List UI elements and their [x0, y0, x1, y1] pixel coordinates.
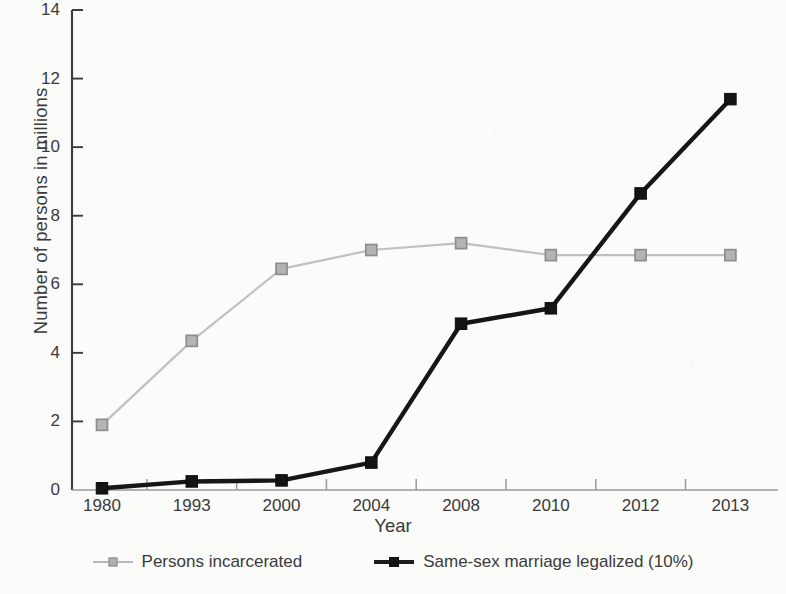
data-point-marker[interactable]	[366, 245, 377, 256]
data-point-marker[interactable]	[635, 250, 646, 261]
data-point-marker[interactable]	[366, 457, 378, 469]
data-point-marker[interactable]	[545, 250, 556, 261]
x-tick-label: 2013	[690, 496, 770, 516]
legend-label: Persons incarcerated	[142, 552, 303, 572]
data-point-marker[interactable]	[455, 318, 467, 330]
data-point-marker[interactable]	[725, 250, 736, 261]
data-point-marker[interactable]	[456, 238, 467, 249]
y-tick-label: 6	[26, 274, 60, 294]
data-point-marker[interactable]	[276, 475, 288, 487]
legend-marker-black-square-icon	[374, 555, 414, 569]
series-layer	[96, 93, 736, 494]
y-tick-label: 10	[26, 137, 60, 157]
data-point-marker[interactable]	[186, 335, 197, 346]
y-tick-label: 0	[26, 480, 60, 500]
legend-label: Same-sex marriage legalized (10%)	[423, 552, 693, 572]
series-persons-incarcerated	[97, 238, 736, 431]
y-tick-label: 4	[26, 343, 60, 363]
y-tick-label: 8	[26, 206, 60, 226]
chart-legend: Persons incarcerated Same-sex marriage l…	[0, 552, 786, 572]
x-tick-label: 2000	[242, 496, 322, 516]
chart-figure: Number of persons in millions Year 02468…	[0, 0, 786, 594]
y-tick-label: 2	[26, 411, 60, 431]
series-line	[102, 99, 730, 488]
legend-marker-gray-square-icon	[93, 555, 133, 569]
axes	[72, 10, 778, 490]
legend-item-persons-incarcerated[interactable]: Persons incarcerated	[93, 552, 303, 572]
data-point-marker[interactable]	[635, 188, 647, 200]
series-line	[102, 243, 730, 425]
x-tick-label: 1993	[152, 496, 232, 516]
x-tick-label: 2010	[511, 496, 591, 516]
data-point-marker[interactable]	[186, 476, 198, 488]
data-point-marker[interactable]	[96, 483, 108, 495]
data-point-marker[interactable]	[276, 263, 287, 274]
x-axis-title: Year	[0, 515, 786, 537]
x-tick-label: 1980	[62, 496, 142, 516]
data-point-marker[interactable]	[545, 303, 557, 315]
y-tick-label: 12	[26, 69, 60, 89]
series-same-sex-marriage	[96, 93, 736, 494]
legend-item-same-sex-marriage[interactable]: Same-sex marriage legalized (10%)	[374, 552, 693, 572]
x-tick-label: 2008	[421, 496, 501, 516]
x-tick-label: 2004	[331, 496, 411, 516]
data-point-marker[interactable]	[725, 93, 737, 105]
y-tick-label: 14	[26, 0, 60, 20]
x-tick-label: 2012	[601, 496, 681, 516]
data-point-marker[interactable]	[97, 419, 108, 430]
